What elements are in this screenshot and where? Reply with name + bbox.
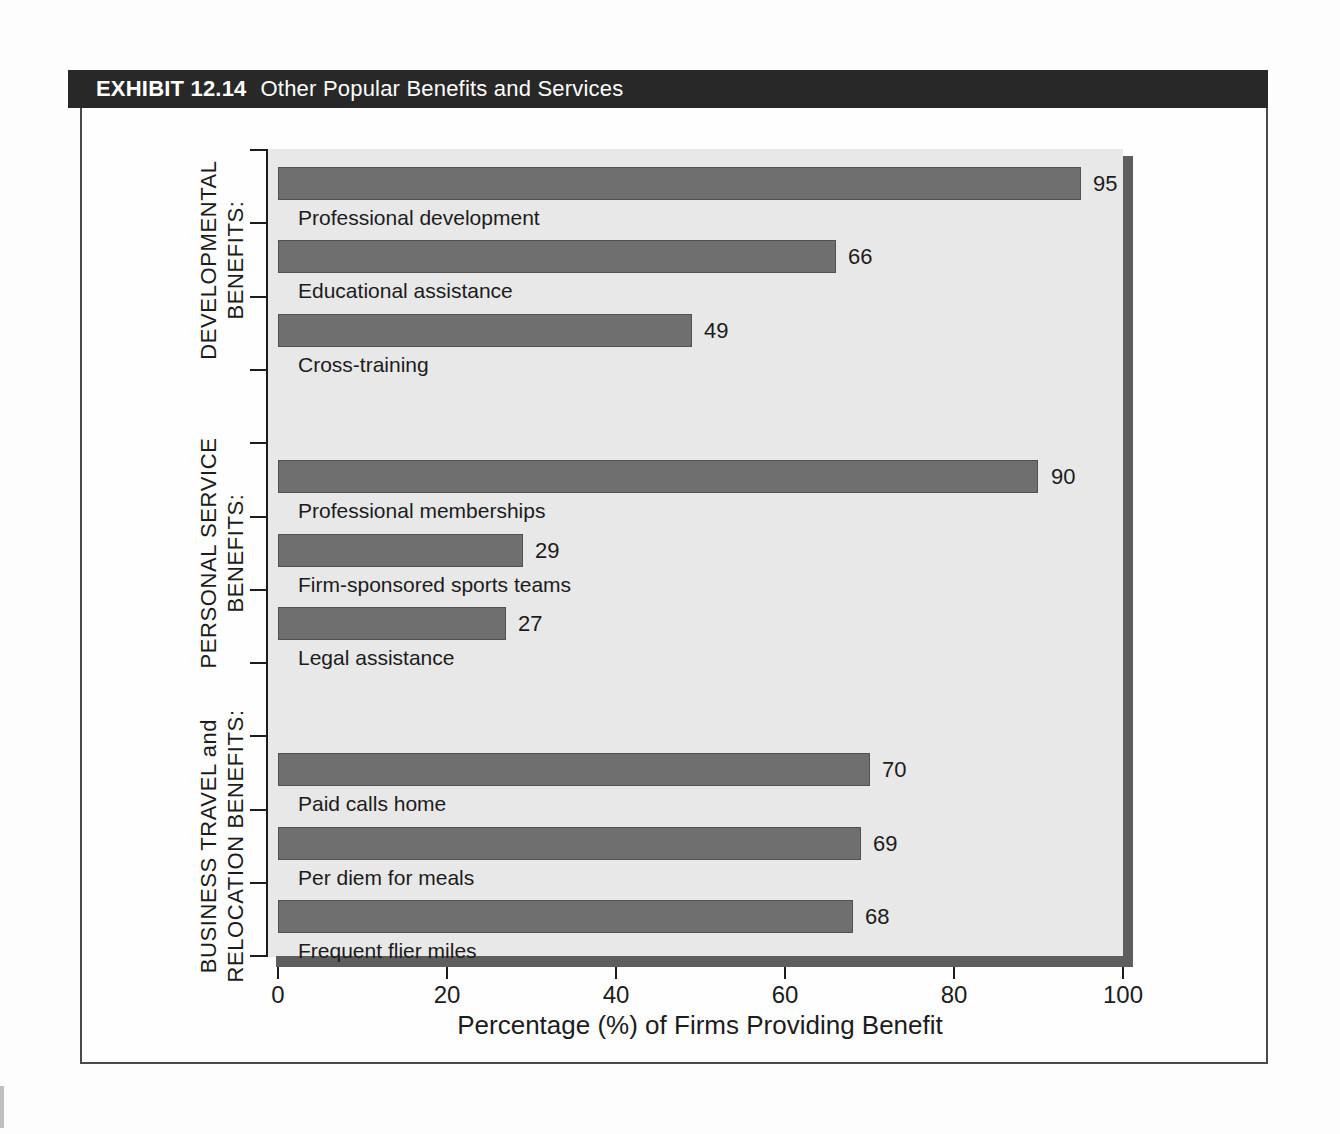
bar [278,167,1081,200]
x-axis-tick-label: 60 [735,981,835,1009]
bar-value-label: 27 [518,607,542,640]
bar [278,900,853,933]
bar [278,460,1038,493]
x-axis-tick [953,967,955,979]
x-axis-tick-label: 0 [228,981,328,1009]
x-axis-tick [615,967,617,979]
bar-value-label: 95 [1093,167,1117,200]
y-axis-tick [250,735,266,737]
bar [278,753,870,786]
bar-category-label: Professional development [298,206,540,230]
y-axis-tick [250,955,266,957]
bar-value-label: 49 [704,314,728,347]
bar-category-label: Cross-training [298,353,429,377]
y-axis-line [266,149,268,957]
x-axis-tick-label: 80 [904,981,1004,1009]
bar-category-label: Paid calls home [298,792,446,816]
bar-category-label: Frequent flier miles [298,939,477,963]
y-axis-tick [250,149,266,151]
bar-category-label: Educational assistance [298,279,513,303]
group-label-line: BUSINESS TRAVEL and [195,709,222,982]
y-axis-tick [250,662,266,664]
x-axis-tick [1122,967,1124,979]
bar-value-label: 90 [1051,460,1075,493]
bar-category-label: Professional memberships [298,499,545,523]
x-axis-tick [784,967,786,979]
group-label-line: BENEFITS: [222,160,249,359]
y-axis-tick [250,222,266,224]
bar-value-label: 29 [535,534,559,567]
group-label: DEVELOPMENTALBENEFITS: [195,160,249,359]
bar [278,534,523,567]
bar [278,607,506,640]
group-label: BUSINESS TRAVEL andRELOCATION BENEFITS: [195,709,249,982]
plot-shadow-right [1123,156,1133,967]
bar [278,240,836,273]
page: { "exhibit": { "label": "EXHIBIT 12.14",… [0,0,1340,1134]
bar-value-label: 69 [873,827,897,860]
y-axis-tick [250,369,266,371]
group-label-line: DEVELOPMENTAL [195,160,222,359]
y-axis-tick [250,296,266,298]
x-axis-tick-label: 100 [1073,981,1173,1009]
group-label: PERSONAL SERVICEBENEFITS: [195,438,249,669]
x-axis-title: Percentage (%) of Firms Providing Benefi… [457,1010,943,1041]
bar-chart: Percentage (%) of Firms Providing Benefi… [0,0,1340,1134]
x-axis-tick-label: 40 [566,981,666,1009]
bar-category-label: Per diem for meals [298,866,474,890]
y-axis-tick [250,589,266,591]
bar [278,827,861,860]
y-axis-tick [250,809,266,811]
y-axis-tick [250,442,266,444]
bar [278,314,692,347]
scan-artifact-mark [0,1086,4,1128]
bar-category-label: Firm-sponsored sports teams [298,573,571,597]
y-axis-tick [250,516,266,518]
group-label-line: PERSONAL SERVICE [195,438,222,669]
bar-value-label: 70 [882,753,906,786]
y-axis-tick [250,882,266,884]
bar-value-label: 68 [865,900,889,933]
group-label-line: RELOCATION BENEFITS: [222,709,249,982]
group-label-line: BENEFITS: [222,438,249,669]
x-axis-tick-label: 20 [397,981,497,1009]
bar-value-label: 66 [848,240,872,273]
x-axis-tick [277,967,279,979]
x-axis-tick [446,967,448,979]
bar-category-label: Legal assistance [298,646,454,670]
